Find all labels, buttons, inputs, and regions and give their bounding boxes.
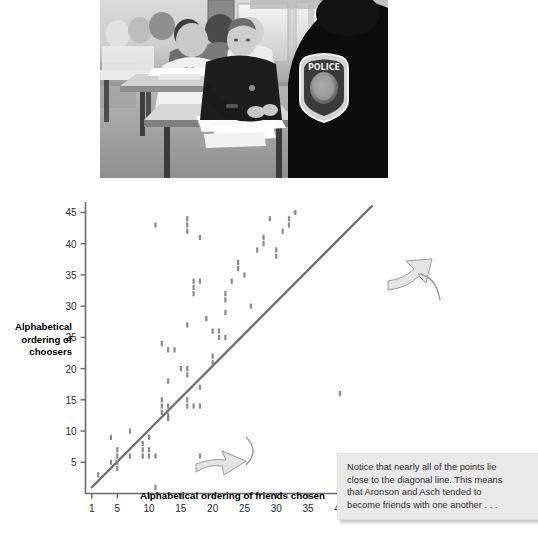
- callout-top-line-4: become friends with one another . . .: [347, 499, 531, 512]
- data-point: [180, 366, 182, 371]
- data-point: [154, 453, 156, 458]
- data-point: [161, 397, 163, 402]
- data-point: [116, 453, 118, 458]
- svg-text:10: 10: [65, 426, 77, 437]
- svg-text:35: 35: [302, 503, 314, 514]
- data-point: [262, 241, 264, 246]
- y-axis-title-line-3: choosers: [0, 346, 72, 359]
- callout-top-line-1: Notice that nearly all of the points lie: [347, 461, 531, 474]
- svg-text:20: 20: [65, 364, 77, 375]
- data-point: [154, 222, 156, 227]
- data-point: [199, 403, 201, 408]
- data-point: [186, 222, 188, 227]
- svg-text:30: 30: [271, 503, 283, 514]
- svg-text:1: 1: [89, 503, 95, 514]
- data-point: [339, 391, 341, 396]
- data-point: [186, 397, 188, 402]
- data-point: [224, 291, 226, 296]
- svg-text:POLICE: POLICE: [308, 63, 340, 72]
- data-point: [167, 378, 169, 383]
- data-point: [142, 441, 144, 446]
- data-point: [288, 222, 290, 227]
- svg-text:20: 20: [207, 503, 219, 514]
- data-point: [212, 360, 214, 365]
- data-point: [129, 453, 131, 458]
- data-point: [192, 291, 194, 296]
- data-point: [199, 235, 201, 240]
- data-point: [110, 435, 112, 440]
- svg-text:25: 25: [239, 503, 251, 514]
- data-point: [148, 453, 150, 458]
- data-points: [97, 210, 341, 490]
- data-point: [142, 453, 144, 458]
- data-point: [148, 435, 150, 440]
- data-point: [110, 460, 112, 465]
- data-point: [237, 266, 239, 271]
- data-point: [148, 447, 150, 452]
- data-point: [224, 310, 226, 315]
- data-point: [186, 403, 188, 408]
- data-point: [167, 413, 169, 418]
- data-point: [116, 460, 118, 465]
- data-point: [250, 304, 252, 309]
- trend-line: [92, 206, 372, 487]
- data-point: [116, 447, 118, 452]
- data-point: [199, 385, 201, 390]
- data-point: [116, 466, 118, 471]
- data-point: [282, 229, 284, 234]
- data-point: [199, 279, 201, 284]
- data-point: [186, 372, 188, 377]
- data-point: [243, 272, 245, 277]
- data-point: [294, 210, 296, 215]
- data-point: [199, 453, 201, 458]
- data-point: [173, 347, 175, 352]
- callout-top: Notice that nearly all of the points lie…: [337, 453, 538, 520]
- curved-arrow-down-left-icon: [196, 437, 253, 475]
- data-point: [224, 335, 226, 340]
- callout-top-line-3: that Aronson and Asch tended to: [347, 486, 531, 499]
- data-point: [288, 216, 290, 221]
- data-point: [237, 260, 239, 265]
- data-point: [262, 235, 264, 240]
- data-point: [275, 254, 277, 259]
- classroom-photo: POLICE: [100, 0, 388, 178]
- data-point: [256, 247, 258, 252]
- data-point: [186, 229, 188, 234]
- svg-text:15: 15: [175, 503, 187, 514]
- scatter-figure: 51015202530354045 151015202530354045 Alp…: [0, 186, 538, 538]
- data-point: [142, 447, 144, 452]
- data-point: [167, 403, 169, 408]
- data-point: [212, 329, 214, 334]
- data-point: [275, 247, 277, 252]
- y-axis-title: Alphabetical ordering of choosers: [0, 321, 72, 359]
- data-point: [192, 279, 194, 284]
- svg-text:5: 5: [71, 457, 77, 468]
- data-point: [186, 216, 188, 221]
- curved-arrow-up-left-icon: [388, 259, 440, 300]
- data-point: [269, 216, 271, 221]
- data-point: [167, 347, 169, 352]
- classroom-photo-image: POLICE: [100, 0, 388, 178]
- data-point: [186, 322, 188, 327]
- data-point: [231, 279, 233, 284]
- svg-text:10: 10: [144, 503, 156, 514]
- svg-text:5: 5: [115, 503, 121, 514]
- data-point: [218, 329, 220, 334]
- data-point: [212, 354, 214, 359]
- data-point: [161, 410, 163, 415]
- data-point: [161, 403, 163, 408]
- data-point: [97, 472, 99, 477]
- svg-text:15: 15: [65, 395, 77, 406]
- y-axis-title-line-1: Alphabetical: [0, 321, 72, 334]
- svg-text:35: 35: [65, 270, 77, 281]
- data-point: [224, 297, 226, 302]
- y-axis-title-line-2: ordering of: [0, 334, 72, 347]
- data-point: [129, 428, 131, 433]
- data-point: [192, 285, 194, 290]
- data-point: [218, 335, 220, 340]
- x-axis-title: Alphabetical ordering of friends chosen: [85, 490, 380, 501]
- svg-text:45: 45: [65, 207, 77, 218]
- svg-text:30: 30: [65, 301, 77, 312]
- data-point: [186, 366, 188, 371]
- callout-top-line-2: close to the diagonal line. This means: [347, 474, 531, 487]
